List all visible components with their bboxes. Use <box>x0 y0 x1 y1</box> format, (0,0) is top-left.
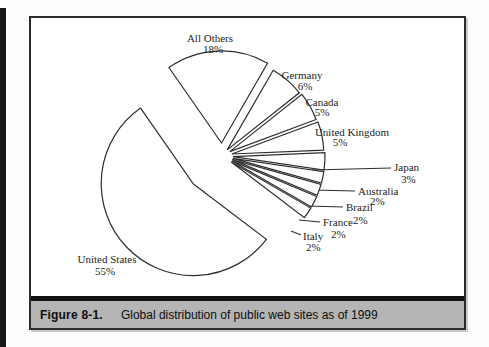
page-edge-artifact <box>0 8 6 347</box>
figure-caption: Figure 8-1. Global distribution of publi… <box>31 301 464 328</box>
figure-caption-text: Global distribution of public web sites … <box>121 308 378 322</box>
figure-caption-label: Figure 8-1. <box>40 308 103 322</box>
figure-frame: Figure 8-1. Global distribution of publi… <box>29 16 466 330</box>
chart-area <box>31 18 464 296</box>
